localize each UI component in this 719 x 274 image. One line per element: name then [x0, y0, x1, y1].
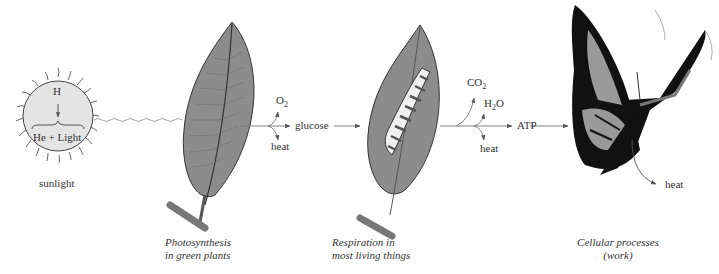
respiration-caption: Respiration inmost living things: [332, 236, 410, 262]
butterfly-icon: [572, 5, 712, 175]
helium-light-label: He + Light: [33, 131, 81, 143]
green-leaf-icon: [170, 22, 254, 228]
photosynthesis-caption: Photosynthesisin green plants: [165, 236, 231, 262]
heat-label-photosynthesis: heat: [271, 140, 289, 152]
energy-flow-diagram: [0, 0, 719, 274]
atp-label: ATP: [517, 119, 537, 131]
heat-label-cellular: heat: [665, 178, 683, 190]
co2-label: CO2: [467, 76, 486, 91]
respiration-arrows: [440, 98, 568, 140]
cellular-caption: Cellular processes(work): [563, 236, 673, 262]
light-wave: [94, 119, 182, 122]
glucose-label: glucose: [295, 119, 329, 131]
hydrogen-label: H: [53, 85, 61, 97]
sun-icon: [16, 68, 99, 163]
leaf-with-caterpillar-icon: [360, 25, 439, 236]
heat-label-respiration: heat: [480, 142, 498, 154]
sunlight-label: sunlight: [39, 177, 74, 189]
o2-label: O2: [276, 94, 288, 109]
h2o-label: H2O: [484, 97, 504, 112]
